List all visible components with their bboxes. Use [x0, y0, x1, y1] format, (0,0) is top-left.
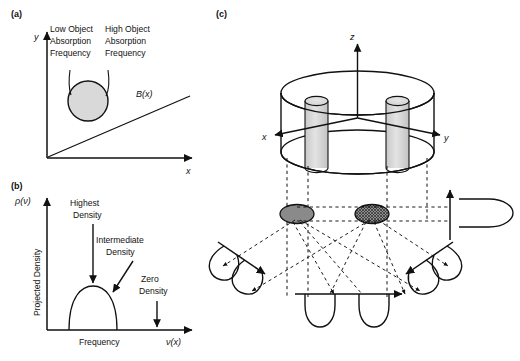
highest-density-line-1: Highest [70, 198, 100, 208]
annotation-right-line-3: Frequency [105, 48, 146, 58]
inner-cylinder-right-top [386, 96, 409, 105]
annotation-right-line-2: Absorption [105, 36, 146, 46]
annotation-left-line-1: Low Object [50, 24, 94, 34]
panel-a-object-circle [68, 81, 108, 121]
panel-a-label: (a) [11, 9, 22, 19]
axis-x-label: x [261, 132, 267, 142]
inner-cylinder-right [386, 96, 409, 172]
figure-canvas: (a) y x B(x) Low Object Absorption Frequ… [0, 0, 520, 361]
inner-cylinder-right-body [386, 101, 409, 168]
intermediate-density-line-2: Density [106, 247, 135, 257]
intermediate-density-line-1: Intermediate [96, 235, 144, 245]
panel-b-y-axis-label: Projected Density [32, 248, 42, 316]
zero-density-line-1: Zero [141, 274, 159, 284]
panel-b-x-axis-symbol: ν(x) [166, 337, 181, 347]
panel-b-x-axis-label: Frequency [79, 337, 120, 347]
annotation-left-line-2: Absorption [50, 36, 91, 46]
panel-a-annotation-right: High Object Absorption Frequency [105, 24, 151, 58]
zero-density-line-2: Density [139, 286, 168, 296]
annotation-left-line-3: Frequency [50, 48, 91, 58]
axis-y-label: y [443, 133, 449, 143]
cross-section-right [355, 205, 389, 224]
panel-c-label: (c) [216, 9, 227, 19]
annotation-right-line-1: High Object [105, 24, 151, 34]
panel-a-y-axis-label: y [33, 32, 39, 42]
panel-b-label: (b) [11, 181, 23, 191]
panel-a-annotation-left: Low Object Absorption Frequency [50, 24, 94, 58]
axis-z-label: z [349, 32, 355, 42]
figure-svg: (a) y x B(x) Low Object Absorption Frequ… [0, 0, 520, 361]
panel-a-x-axis-label: x [185, 166, 191, 176]
inner-cylinder-left-top [305, 96, 328, 105]
inner-cylinder-left [305, 96, 328, 172]
highest-density-line-2: Density [73, 210, 102, 220]
panel-a-gradient-label: B(x) [136, 89, 153, 99]
panel-b-y-axis-symbol: ρ(ν) [14, 196, 31, 206]
